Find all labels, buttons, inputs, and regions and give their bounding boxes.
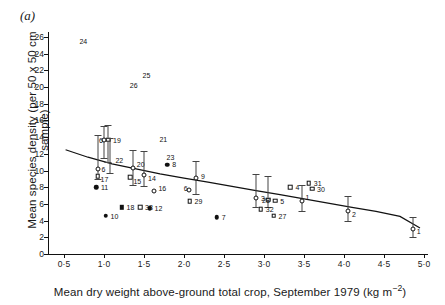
- data-point-label: 21: [159, 135, 167, 142]
- x-tick: [304, 254, 305, 258]
- y-axis-title: Mean species density (per 50 x 50 cm sam…: [26, 10, 50, 250]
- x-tick: [384, 254, 385, 258]
- data-point-marker-open-circle: [346, 209, 351, 214]
- x-axis-title-exponent: −2: [392, 283, 402, 293]
- y-tick-label: 24: [35, 49, 44, 59]
- y-tick-label: 4: [39, 216, 44, 226]
- data-point-label: 25: [143, 71, 151, 78]
- x-axis-line: [48, 254, 428, 255]
- data-point-marker-open-square: [95, 174, 100, 179]
- data-point-label: 8: [172, 160, 176, 167]
- data-point-label: 9: [201, 173, 205, 180]
- figure-panel-a: (a) Mean species density (per 50 x 50 cm…: [0, 0, 445, 305]
- data-point-marker-filled-circle: [94, 185, 99, 190]
- data-point-label: 7: [222, 214, 226, 221]
- data-point-marker-open-square: [273, 198, 278, 203]
- y-tick-label: 0: [39, 249, 44, 259]
- x-tick: [64, 254, 65, 258]
- data-point-marker-filled-circle: [215, 215, 220, 220]
- data-point-marker-open-circle: [299, 198, 304, 203]
- error-bar-cap: [345, 221, 352, 222]
- error-bar-cap: [298, 185, 305, 186]
- x-tick-label: 1·5: [138, 259, 150, 269]
- error-bar: [110, 138, 111, 173]
- data-point-marker-open-circle: [410, 226, 415, 231]
- data-point-marker-open-square: [271, 213, 276, 218]
- data-point-marker-open-square: [128, 175, 133, 180]
- error-bar-cap: [141, 151, 148, 152]
- data-point-label: 16: [158, 184, 166, 191]
- y-tick: [44, 254, 48, 255]
- x-tick: [264, 254, 265, 258]
- error-bar-cap: [141, 186, 148, 187]
- data-point-label: 19: [113, 136, 121, 143]
- data-point-marker-open-circle: [194, 176, 199, 181]
- y-tick-label: 10: [35, 166, 44, 176]
- x-tick-label: 3·0: [258, 259, 270, 269]
- error-bar-cap: [193, 194, 200, 195]
- data-point-marker-open-circle: [142, 172, 147, 177]
- x-tick-label: 1·0: [98, 259, 110, 269]
- data-point-marker-filled-square: [119, 205, 123, 209]
- error-bar-cap: [409, 237, 416, 238]
- data-point-label: 1: [417, 227, 421, 234]
- fit-curve: [48, 32, 428, 254]
- x-tick-label: 2·0: [178, 259, 190, 269]
- data-point-label: 30: [317, 185, 325, 192]
- data-point-marker-open-square: [310, 187, 315, 192]
- data-point-label: 18: [127, 204, 135, 211]
- error-bar-cap: [129, 150, 136, 151]
- data-point-label: 29: [195, 198, 203, 205]
- error-bar-cap: [101, 126, 108, 127]
- data-point-marker-filled-circle: [147, 206, 152, 211]
- y-tick-label: 14: [35, 132, 44, 142]
- y-tick-label: 12: [35, 149, 44, 159]
- x-tick-label: 3·5: [298, 259, 310, 269]
- data-point-marker-open-circle: [152, 188, 157, 193]
- data-point-marker-open-square: [138, 205, 143, 210]
- error-bar-cap: [265, 176, 272, 177]
- x-axis-title-main: Mean dry weight above-ground total crop,…: [54, 286, 393, 298]
- x-tick-label: 5·0: [418, 259, 430, 269]
- data-point-label: 11: [101, 184, 108, 191]
- data-point-marker-open-circle: [95, 166, 100, 171]
- data-point-label: 17: [101, 176, 109, 183]
- data-point-label: 27: [279, 212, 287, 219]
- error-bar: [144, 151, 145, 185]
- error-bar-cap: [94, 135, 101, 136]
- error-bar-cap: [101, 158, 108, 159]
- data-point-label: 6: [184, 184, 188, 191]
- data-point-label: 10: [111, 212, 119, 219]
- error-bar-cap: [409, 217, 416, 218]
- data-point-marker-open-square: [288, 185, 293, 190]
- x-tick-label: 4·5: [378, 259, 390, 269]
- x-tick: [344, 254, 345, 258]
- data-point-label: 24: [79, 38, 87, 45]
- x-tick: [184, 254, 185, 258]
- data-point-marker-open-circle: [254, 196, 259, 201]
- error-bar-cap: [129, 185, 136, 186]
- data-point-marker-open-square: [307, 181, 312, 186]
- plot-area: 02468101214161820222426 0·51·01·52·02·53…: [48, 32, 428, 254]
- data-point-label: 6: [102, 165, 106, 172]
- data-point-label: 2: [352, 211, 356, 218]
- x-tick-label: 0·5: [58, 259, 70, 269]
- error-bar-cap: [345, 196, 352, 197]
- data-point-marker-open-square: [259, 207, 264, 212]
- data-point-label: 5: [280, 197, 284, 204]
- error-bar-cap: [107, 138, 114, 139]
- x-tick-label: 2·5: [218, 259, 230, 269]
- y-tick-label: 22: [35, 65, 44, 75]
- data-point-label: 22: [115, 156, 123, 163]
- data-point-marker-filled-circle: [103, 213, 108, 218]
- error-bar-cap: [193, 161, 200, 162]
- data-point-label: 26: [130, 81, 138, 88]
- data-point-marker-open-circle: [130, 166, 135, 171]
- y-tick-label: 20: [35, 82, 44, 92]
- data-point-label: 6: [99, 136, 103, 143]
- data-point-label: 12: [155, 205, 163, 212]
- data-point-label: 28: [262, 196, 270, 203]
- error-bar: [256, 174, 257, 207]
- error-bar-cap: [298, 211, 305, 212]
- data-point-marker-filled-circle: [165, 162, 170, 167]
